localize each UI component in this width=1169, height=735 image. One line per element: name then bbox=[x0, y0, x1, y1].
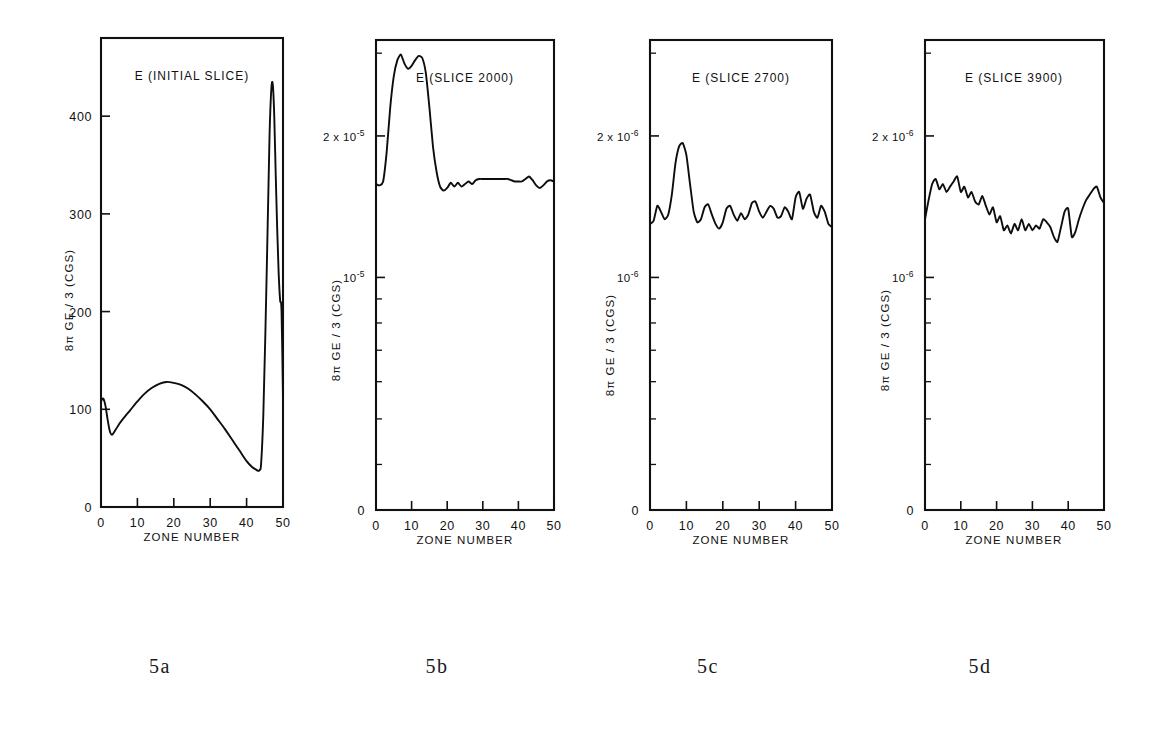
x-tick-label: 40 bbox=[239, 516, 254, 530]
panel-title: E (SLICE 2000) bbox=[416, 71, 514, 85]
x-axis-ticklabels: 01020304050 bbox=[372, 519, 561, 533]
x-tick-label: 10 bbox=[953, 519, 968, 533]
plot-frame bbox=[650, 40, 832, 510]
y-tick-label: 10-5 bbox=[343, 269, 365, 284]
x-axis-ticklabels: 01020304050 bbox=[97, 516, 290, 530]
y-tick-label: 2 x 10-6 bbox=[597, 128, 639, 143]
x-tick-label: 0 bbox=[646, 519, 654, 533]
y-axis-zero-label: 0 bbox=[631, 504, 639, 518]
y-axis-zero-label: 0 bbox=[357, 504, 365, 518]
caption-row: 5a 5b 5c 5d bbox=[0, 655, 1169, 695]
y-axis-zero-label: 0 bbox=[906, 504, 914, 518]
chart-panel-5c: 2 x 10-610-60 01020304050 E (SLICE 2700)… bbox=[550, 0, 850, 735]
x-tick-label: 0 bbox=[921, 519, 929, 533]
x-axis-ticks bbox=[101, 498, 283, 507]
x-tick-label: 0 bbox=[372, 519, 380, 533]
chart-panel-5d: 2 x 10-610-60 01020304050 E (SLICE 3900)… bbox=[825, 0, 1155, 735]
y-tick-label: 2 x 10-6 bbox=[872, 128, 914, 143]
y-axis-title: 8π GE / 3 (CGS) bbox=[63, 249, 75, 351]
chart-svg-5d: 2 x 10-610-60 01020304050 E (SLICE 3900)… bbox=[825, 0, 1155, 560]
x-tick-label: 30 bbox=[475, 519, 490, 533]
figure-root: 0100200300400 01020304050 E (INITIAL SLI… bbox=[0, 0, 1169, 735]
panel-title: E (INITIAL SLICE) bbox=[135, 69, 250, 83]
x-axis-ticklabels: 01020304050 bbox=[646, 519, 839, 533]
y-axis-ticks bbox=[101, 116, 110, 507]
y-tick-label: 10-6 bbox=[617, 269, 639, 284]
x-axis-ticks bbox=[376, 501, 554, 510]
plot-frame bbox=[101, 38, 283, 507]
x-tick-label: 50 bbox=[1096, 519, 1111, 533]
x-tick-label: 40 bbox=[788, 519, 803, 533]
chart-svg-5c: 2 x 10-610-60 01020304050 E (SLICE 2700)… bbox=[550, 0, 850, 560]
x-tick-label: 40 bbox=[1061, 519, 1076, 533]
y-axis-title: 8π GE / 3 (CGS) bbox=[879, 289, 891, 391]
plot-frame bbox=[376, 40, 554, 510]
y-tick-label: 100 bbox=[69, 403, 92, 417]
y-tick-label: 10-6 bbox=[892, 269, 914, 284]
y-tick-label: 400 bbox=[69, 110, 92, 124]
chart-panel-5b: 2 x 10-510-50 01020304050 E (SLICE 2000)… bbox=[276, 0, 576, 735]
x-tick-label: 10 bbox=[130, 516, 145, 530]
data-curve bbox=[650, 143, 832, 229]
y-axis-ticks bbox=[925, 53, 934, 464]
x-tick-label: 40 bbox=[511, 519, 526, 533]
y-axis-ticks bbox=[376, 53, 385, 464]
x-tick-label: 0 bbox=[97, 516, 105, 530]
plot-frame bbox=[925, 40, 1104, 510]
x-tick-label: 20 bbox=[989, 519, 1004, 533]
panel-title: E (SLICE 3900) bbox=[965, 71, 1063, 85]
x-tick-label: 20 bbox=[715, 519, 730, 533]
figure-caption-5d: 5d bbox=[940, 655, 1020, 678]
x-axis-title: ZONE NUMBER bbox=[143, 531, 240, 543]
y-tick-label: 0 bbox=[84, 501, 92, 515]
x-tick-label: 20 bbox=[440, 519, 455, 533]
y-tick-label: 300 bbox=[69, 208, 92, 222]
x-tick-label: 10 bbox=[679, 519, 694, 533]
figure-caption-5b: 5b bbox=[397, 655, 477, 678]
y-axis-ticks bbox=[650, 53, 659, 464]
x-tick-label: 10 bbox=[404, 519, 419, 533]
x-axis-title: ZONE NUMBER bbox=[965, 534, 1062, 546]
x-tick-label: 30 bbox=[752, 519, 767, 533]
x-tick-label: 30 bbox=[1025, 519, 1040, 533]
y-axis-title: 8π GE / 3 (CGS) bbox=[330, 279, 342, 381]
y-axis-title: 8π GE / 3 (CGS) bbox=[604, 294, 616, 396]
data-curve bbox=[925, 176, 1104, 242]
x-axis-title: ZONE NUMBER bbox=[416, 534, 513, 546]
x-tick-label: 30 bbox=[203, 516, 218, 530]
data-curve bbox=[101, 82, 283, 471]
x-axis-title: ZONE NUMBER bbox=[692, 534, 789, 546]
x-tick-label: 20 bbox=[166, 516, 181, 530]
x-axis-ticks bbox=[925, 501, 1104, 510]
y-tick-label: 2 x 10-5 bbox=[323, 128, 365, 143]
x-axis-ticklabels: 01020304050 bbox=[921, 519, 1111, 533]
figure-caption-5a: 5a bbox=[120, 655, 200, 678]
x-axis-ticks bbox=[650, 501, 832, 510]
figure-caption-5c: 5c bbox=[668, 655, 748, 678]
chart-svg-5b: 2 x 10-510-50 01020304050 E (SLICE 2000)… bbox=[276, 0, 576, 560]
panel-title: E (SLICE 2700) bbox=[692, 71, 790, 85]
